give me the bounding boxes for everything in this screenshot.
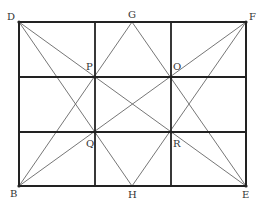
vertex-F <box>244 20 247 23</box>
vertex-P <box>93 75 96 78</box>
vertex-R <box>169 130 172 133</box>
label-D: D <box>7 11 15 22</box>
vertex-O <box>169 75 172 78</box>
vertex-B <box>17 184 20 187</box>
vertex-E <box>244 184 247 187</box>
vertex-Q <box>93 130 96 133</box>
label-Q: Q <box>86 138 94 149</box>
diagram-canvas: D G F P O Q R B H E <box>0 0 263 212</box>
vertex-D <box>17 20 20 23</box>
label-P: P <box>86 61 93 72</box>
label-F: F <box>249 11 256 22</box>
geometry-diagram: D G F P O Q R B H E <box>0 0 263 212</box>
diagonal-lines <box>19 22 246 186</box>
label-E: E <box>242 189 249 200</box>
label-R: R <box>173 138 181 149</box>
label-O: O <box>173 61 181 72</box>
label-B: B <box>10 188 17 199</box>
label-H: H <box>128 189 137 200</box>
label-G: G <box>128 9 136 20</box>
